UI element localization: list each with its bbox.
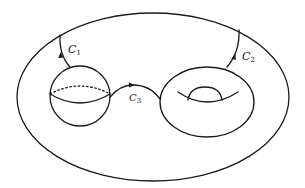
arrow-right-icon (129, 83, 135, 88)
torus-hole-upper (188, 87, 222, 100)
sphere (50, 66, 110, 126)
torus (160, 67, 254, 137)
sphere-outline (50, 66, 110, 126)
sphere-equator-back (50, 86, 110, 94)
curve-c1: C1 (58, 35, 81, 67)
label-c1: C1 (68, 43, 81, 57)
outer-surface (17, 13, 289, 181)
curve-c3: C3 (110, 83, 160, 105)
sphere-equator-front (50, 94, 110, 103)
surface-diagram: C1 C2 C3 (0, 0, 305, 188)
label-c2: C2 (242, 50, 255, 64)
label-c3: C3 (129, 92, 141, 105)
torus-hole-lower (178, 92, 238, 102)
curve-c2: C2 (227, 30, 255, 67)
curve-c2-path (227, 30, 239, 67)
